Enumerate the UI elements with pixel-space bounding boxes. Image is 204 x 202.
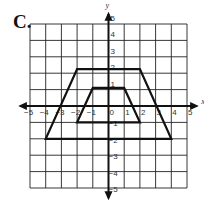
x-tick-label: 5 bbox=[188, 108, 193, 117]
x-tick-label: 4 bbox=[172, 108, 177, 117]
y-tick-label: −2 bbox=[109, 136, 119, 145]
x-tick-label: 0 bbox=[110, 108, 115, 117]
y-axis-label: y bbox=[105, 1, 110, 10]
y-tick-label: 4 bbox=[111, 30, 116, 39]
coordinate-plane: xy −5−4−3−2−101234554321−1−2−3−4−5 bbox=[0, 0, 204, 202]
y-tick-label: 2 bbox=[111, 63, 116, 72]
y-tick-label: −1 bbox=[109, 119, 119, 128]
y-tick-label: 5 bbox=[111, 14, 116, 23]
x-tick-label: −5 bbox=[24, 108, 34, 117]
y-tick-label: 3 bbox=[111, 47, 116, 56]
x-tick-label: −1 bbox=[87, 108, 97, 117]
y-tick-label: −3 bbox=[109, 152, 119, 161]
x-tick-label: −4 bbox=[40, 108, 50, 117]
y-tick-label: −4 bbox=[109, 169, 119, 178]
x-axis-label: x bbox=[200, 97, 204, 106]
y-tick-label: −5 bbox=[109, 185, 119, 194]
x-tick-label: 1 bbox=[125, 108, 130, 117]
x-tick-label: 2 bbox=[141, 108, 146, 117]
